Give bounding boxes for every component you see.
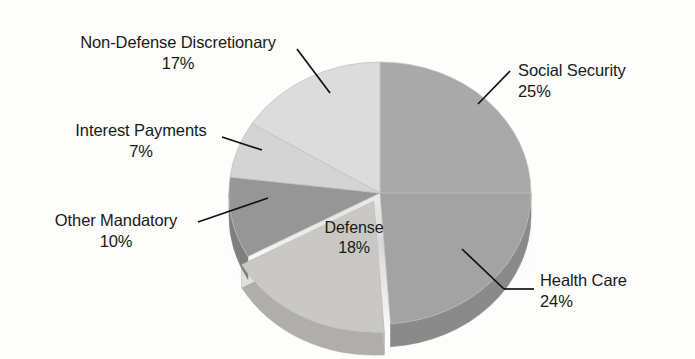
slice-label-name: Interest Payments: [75, 121, 206, 139]
slice-label-defense: Defense 18%: [302, 218, 406, 259]
slice-label-name: Other Mandatory: [55, 211, 177, 229]
slice-label-pct: 7%: [30, 141, 252, 162]
chart-canvas: Non-Defense Discretionary 17% Interest P…: [0, 0, 695, 359]
slice-label-social-security: Social Security 25%: [518, 60, 678, 102]
slice-label-pct: 10%: [10, 231, 222, 252]
slice-label-non-defense-discretionary: Non-Defense Discretionary 17%: [44, 32, 312, 74]
slice-label-other-mandatory: Other Mandatory 10%: [10, 210, 222, 252]
slice-label-name: Defense: [325, 219, 384, 236]
leader-line-social-security: [478, 71, 510, 104]
slice-label-pct: 25%: [518, 81, 678, 102]
slice-label-name: Health Care: [540, 271, 627, 289]
slice-label-name: Social Security: [518, 61, 626, 79]
slice-label-pct: 18%: [302, 238, 406, 258]
slice-label-interest-payments: Interest Payments 7%: [30, 120, 252, 162]
slice-label-pct: 24%: [540, 291, 690, 312]
slice-label-name: Non-Defense Discretionary: [80, 33, 276, 51]
slice-label-pct: 17%: [44, 53, 312, 74]
pie-slice-social-security[interactable]: [380, 62, 531, 193]
slice-label-health-care: Health Care 24%: [540, 270, 690, 312]
